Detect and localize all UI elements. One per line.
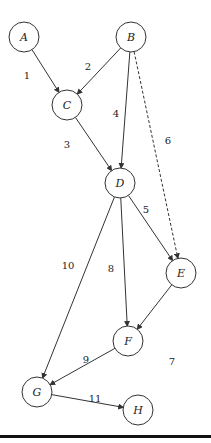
node-label: F — [123, 335, 132, 348]
node-B: B — [116, 22, 146, 52]
edge-label: 11 — [89, 393, 102, 404]
node-label: D — [115, 177, 125, 190]
node-E: E — [166, 258, 196, 288]
edge-D-F — [121, 198, 127, 326]
edge-D-E — [128, 195, 172, 260]
node-label: E — [176, 267, 185, 280]
node-D: D — [105, 168, 135, 198]
bottom-rule — [0, 435, 211, 438]
node-label: B — [126, 31, 135, 44]
edge-B-E — [134, 52, 178, 259]
edge-G-H — [52, 395, 123, 408]
edge-B-D — [121, 52, 130, 168]
edge-A-C — [32, 50, 59, 93]
node-label: H — [132, 404, 143, 417]
graph-diagram: 1234567891011 ABCDEFGH — [0, 0, 211, 443]
node-label: G — [33, 386, 42, 399]
edge-D-G — [43, 197, 115, 378]
edge-C-D — [75, 117, 111, 170]
edge-label: 9 — [83, 354, 89, 365]
node-C: C — [52, 90, 82, 120]
edge-label: 6 — [165, 135, 171, 146]
edge-label: 7 — [169, 356, 175, 367]
edge-label: 3 — [64, 139, 70, 150]
node-label: A — [19, 31, 28, 44]
edge-label: 4 — [113, 108, 119, 119]
edge-label: 1 — [24, 70, 30, 81]
node-H: H — [123, 395, 153, 425]
edge-label: 5 — [143, 204, 149, 215]
edge-label: 10 — [62, 260, 75, 271]
edge-B-C — [77, 48, 120, 94]
node-A: A — [9, 22, 39, 52]
node-F: F — [113, 326, 143, 356]
edge-label: 2 — [85, 61, 91, 72]
node-label: C — [63, 99, 72, 112]
edge-label: 8 — [108, 263, 114, 274]
edge-E-F — [137, 285, 172, 329]
node-G: G — [22, 377, 52, 407]
